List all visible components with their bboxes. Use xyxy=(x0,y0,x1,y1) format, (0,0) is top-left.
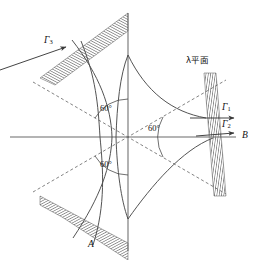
label-gamma1-subscript: 1 xyxy=(227,105,230,112)
label-point-a: A xyxy=(88,240,94,250)
label-point-b: B xyxy=(242,131,248,141)
curve-gamma3 xyxy=(72,40,112,238)
label-gamma2-subscript: 2 xyxy=(227,122,230,129)
curve-upper-left-connector xyxy=(116,55,128,137)
label-angle-lower-left: 60° xyxy=(100,160,112,169)
label-gamma3-subscript: 3 xyxy=(49,38,52,45)
asymptote-up-right xyxy=(33,82,226,194)
curve-gamma2 xyxy=(128,138,213,219)
label-angle-upper-left: 60° xyxy=(100,104,112,113)
hatched-band-lower-left xyxy=(40,196,128,260)
label-gamma2: Γ2 xyxy=(222,120,231,130)
curve-a xyxy=(81,41,103,245)
label-gamma3: Γ3 xyxy=(44,36,53,46)
label-angle-right: 60° xyxy=(148,124,160,133)
hyperbola-curves xyxy=(0,40,234,245)
figure-canvas xyxy=(0,0,259,260)
label-lambda-plane: λ平面 xyxy=(186,56,209,65)
label-gamma1: Γ1 xyxy=(222,103,231,113)
curve-lower-left-connector xyxy=(116,137,128,219)
hyperbola-geometry-figure: Γ3 Γ1 Γ2 B A λ平面 60° 60° 60° xyxy=(0,0,259,260)
